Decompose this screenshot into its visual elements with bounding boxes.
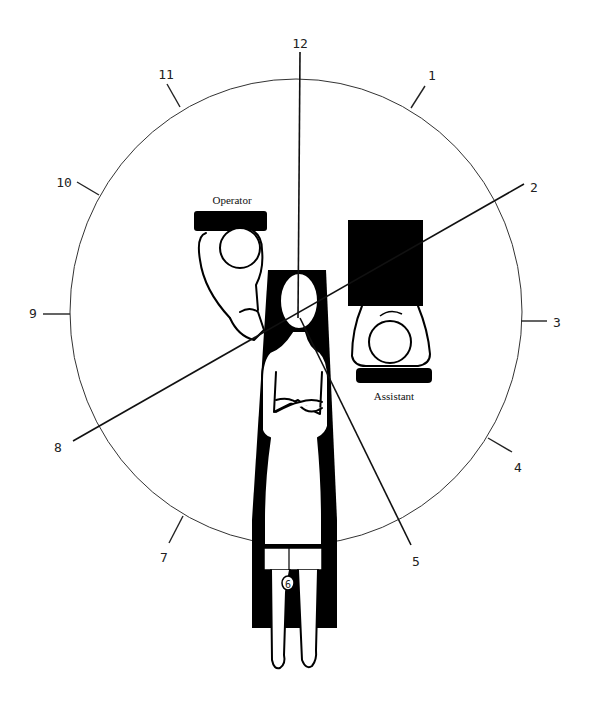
clock-number-3: 3 — [553, 315, 561, 330]
clock-number-4: 4 — [514, 460, 522, 475]
clock-number-10: 10 — [56, 175, 72, 190]
clock-number-12: 12 — [292, 36, 308, 51]
clock-number-9: 9 — [29, 306, 37, 321]
clock-number-8: 8 — [54, 440, 62, 455]
operator-figure — [194, 211, 267, 340]
clock-number-5: 5 — [412, 554, 420, 569]
clock-number-7: 7 — [160, 550, 168, 565]
clock-number-2: 2 — [530, 180, 538, 195]
clock-number-11: 11 — [158, 67, 174, 82]
operator-label: Operator — [212, 194, 251, 206]
clock-number-6: 6 — [285, 579, 291, 590]
assistant-label: Assistant — [374, 390, 414, 402]
clock-number-1: 1 — [428, 68, 436, 83]
clock-position-diagram: 12 1 2 3 4 5 6 7 8 9 10 11 Operator Assi… — [0, 0, 589, 712]
